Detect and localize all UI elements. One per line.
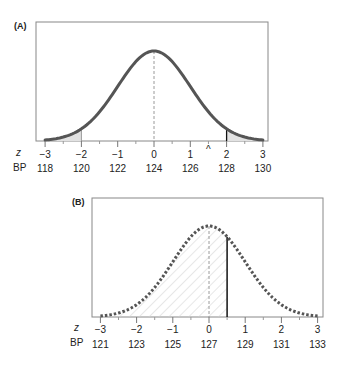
panel-a-frame — [36, 22, 268, 141]
bp-tick-label: 129 — [237, 339, 254, 350]
panel-a-bp-axis-name: BP — [13, 162, 27, 173]
panel-a-bp-tick-labels: 118120122124126128130 — [37, 163, 272, 174]
figure: (A) z BP −3−2−10123 11812012212412612813… — [0, 0, 345, 366]
panel-a-z-tick-labels: −3−2−10123 — [39, 149, 266, 160]
z-tick-label: 0 — [206, 324, 212, 335]
panel-b-x-ticks — [100, 317, 317, 323]
bp-tick-label: 131 — [273, 339, 290, 350]
z-tick-label: −1 — [112, 149, 124, 160]
panel-a-x-ticks — [45, 141, 263, 147]
bp-tick-label: 118 — [37, 163, 53, 174]
bp-tick-label: 121 — [92, 339, 109, 350]
bp-tick-label: 120 — [73, 163, 90, 174]
z-tick-label: 3 — [260, 149, 266, 160]
bp-tick-label: 123 — [128, 339, 145, 350]
z-tick-label: −2 — [76, 149, 88, 160]
bp-tick-label: 122 — [109, 163, 126, 174]
z-tick-label: 2 — [224, 149, 230, 160]
panel-b-hatched-area — [100, 226, 227, 317]
bp-tick-label: 133 — [309, 339, 326, 350]
bp-tick-label: 128 — [218, 163, 235, 174]
panel-a-z-axis-name: z — [15, 147, 21, 158]
bp-tick-label: 126 — [182, 163, 199, 174]
bp-tick-label: 130 — [255, 163, 272, 174]
panel-b-z-axis-name: z — [73, 322, 79, 333]
bp-tick-label: 124 — [146, 163, 163, 174]
bp-tick-label: 125 — [164, 339, 181, 350]
z-tick-label: 1 — [188, 149, 194, 160]
z-tick-label: 1 — [242, 324, 248, 335]
z-tick-label: 3 — [315, 324, 321, 335]
z-tick-label: −3 — [39, 149, 51, 160]
panel-a-caret-marker: ^ — [206, 144, 211, 155]
panel-b-bp-tick-labels: 121123125127129131133 — [92, 339, 326, 350]
z-tick-label: 0 — [151, 149, 157, 160]
bp-tick-label: 127 — [201, 339, 218, 350]
z-tick-label: −3 — [95, 324, 107, 335]
z-tick-label: −1 — [167, 324, 179, 335]
panel-b-label: (B) — [72, 197, 85, 207]
panel-b-bp-axis-name: BP — [70, 337, 84, 348]
z-tick-label: 2 — [279, 324, 285, 335]
z-tick-label: −2 — [131, 324, 143, 335]
panel-b: (B) z BP −3−2−10123 12112312512712913113… — [70, 197, 326, 350]
panel-b-z-tick-labels: −3−2−10123 — [95, 324, 321, 335]
panel-a-label: (A) — [14, 21, 27, 31]
panel-a: (A) z BP −3−2−10123 11812012212412612813… — [13, 21, 272, 174]
